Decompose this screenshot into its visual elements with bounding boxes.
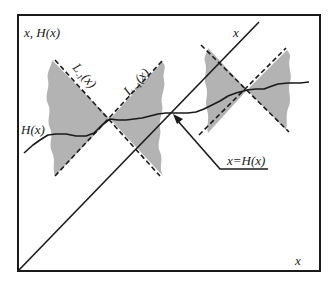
y-axis-label: x, H(x): [23, 25, 60, 40]
x-axis-label: x: [294, 253, 301, 268]
diagonal-label: x: [232, 25, 239, 40]
diagram-canvas: x, H(x) x x H(x) x=H(x) L-1(x) L+1(x): [0, 0, 336, 287]
right-shaded-region-left: [205, 48, 247, 133]
curve-label: H(x): [20, 122, 45, 137]
fixed-point-label: x=H(x): [226, 153, 265, 168]
arrowhead-icon: [173, 114, 183, 124]
diagram-svg: x, H(x) x x H(x) x=H(x) L-1(x) L+1(x): [0, 0, 336, 287]
